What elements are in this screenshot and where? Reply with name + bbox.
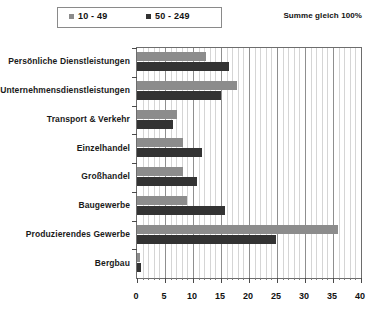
x-tick-minor: [271, 278, 272, 280]
x-tick-minor: [288, 278, 289, 280]
bar-series-10-49: [137, 167, 183, 176]
x-tick-minor: [143, 278, 144, 280]
bar-series-50-249: [137, 177, 197, 186]
x-tick-minor: [232, 278, 233, 280]
y-tick: [132, 221, 137, 222]
x-tick-minor: [187, 278, 188, 280]
bar-group: [137, 48, 361, 77]
bar-series-10-49: [137, 81, 237, 90]
x-tick-minor: [299, 278, 300, 280]
legend-label: 10 - 49: [78, 11, 107, 21]
x-tick-minor: [199, 278, 200, 280]
bar-group: [137, 249, 361, 278]
bar-series-10-49: [137, 110, 177, 119]
bar-series-10-49: [137, 196, 187, 205]
bar-group: [137, 77, 361, 106]
x-tick-minor: [266, 278, 267, 280]
x-tick-minor: [148, 278, 149, 280]
bar-series-10-49: [137, 225, 338, 234]
x-tick-minor: [238, 278, 239, 280]
category-label: Unternehmensdienstleistungen: [0, 85, 130, 95]
x-tick-minor: [327, 278, 328, 280]
x-tick-minor: [283, 278, 284, 280]
bar-group: [137, 192, 361, 221]
category-axis-labels: Persönliche DienstleistungenUnternehmens…: [0, 47, 130, 277]
bar-series-50-249: [137, 263, 141, 272]
category-label: Persönliche Dienstleistungen: [8, 56, 130, 66]
category-label: Bergbau: [95, 258, 130, 268]
x-tick-minor: [182, 278, 183, 280]
x-tick-minor: [215, 278, 216, 280]
x-tick-minor: [322, 278, 323, 280]
x-tick-minor: [260, 278, 261, 280]
value-axis-labels: 0510152025303540: [136, 283, 360, 297]
category-label: Produzierendes Gewerbe: [26, 229, 130, 239]
x-tick-minor: [311, 278, 312, 280]
bar-series-50-249: [137, 120, 173, 129]
category-label: Großhandel: [81, 171, 130, 181]
y-tick: [132, 77, 137, 78]
x-tick-label: 15: [215, 291, 225, 301]
x-tick-minor: [171, 278, 172, 280]
bar-group: [137, 221, 361, 250]
y-tick: [132, 163, 137, 164]
bar-series-50-249: [137, 148, 202, 157]
bar-series-10-49: [137, 138, 183, 147]
bar-series-50-249: [137, 62, 229, 71]
bar-series-50-249: [137, 235, 276, 244]
chart-plot-area: [136, 47, 362, 279]
legend-item-10-49: 10 - 49: [69, 11, 107, 21]
y-tick: [132, 249, 137, 250]
x-tick-minor: [316, 278, 317, 280]
legend-label: 50 - 249: [155, 11, 190, 21]
x-tick-minor: [350, 278, 351, 280]
chart-legend: 10 - 49 50 - 249: [57, 7, 222, 28]
x-tick-minor: [339, 278, 340, 280]
x-tick-minor: [255, 278, 256, 280]
x-tick-minor: [243, 278, 244, 280]
x-tick-major: [361, 278, 362, 283]
bars-layer: [137, 48, 361, 278]
x-tick-minor: [344, 278, 345, 280]
x-tick-minor: [210, 278, 211, 280]
x-tick-minor: [204, 278, 205, 280]
legend-item-50-249: 50 - 249: [146, 11, 190, 21]
x-tick-minor: [227, 278, 228, 280]
bar-series-10-49: [137, 52, 206, 61]
y-tick: [132, 106, 137, 107]
x-tick-minor: [176, 278, 177, 280]
x-tick-label: 0: [133, 291, 138, 301]
category-label: Einzelhandel: [77, 143, 130, 153]
x-tick-label: 25: [271, 291, 281, 301]
bar-group: [137, 106, 361, 135]
sum-note: Summe gleich 100%: [283, 11, 362, 20]
square-marker-icon: [69, 14, 74, 19]
square-marker-icon: [146, 14, 151, 19]
category-label: Baugewerbe: [78, 200, 130, 210]
x-tick-label: 30: [299, 291, 309, 301]
x-tick-label: 20: [243, 291, 253, 301]
x-tick-label: 35: [327, 291, 337, 301]
y-tick: [132, 192, 137, 193]
x-tick-minor: [294, 278, 295, 280]
category-label: Transport & Verkehr: [47, 114, 130, 124]
x-tick-minor: [154, 278, 155, 280]
x-tick-label: 5: [161, 291, 166, 301]
y-tick: [132, 134, 137, 135]
y-tick: [132, 48, 137, 49]
x-tick-minor: [159, 278, 160, 280]
x-tick-label: 40: [355, 291, 365, 301]
x-tick-label: 10: [187, 291, 197, 301]
bar-series-50-249: [137, 206, 225, 215]
bar-group: [137, 163, 361, 192]
bar-series-50-249: [137, 91, 221, 100]
x-tick-minor: [355, 278, 356, 280]
bar-group: [137, 134, 361, 163]
bar-series-10-49: [137, 253, 140, 262]
